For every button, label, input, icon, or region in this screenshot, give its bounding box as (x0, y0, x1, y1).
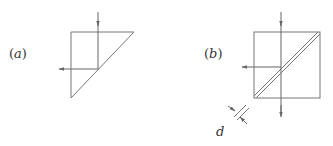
prism-triangle (71, 32, 134, 98)
diagonal-surface-2 (256, 34, 320, 98)
panel-b: (b) d (204, 12, 320, 139)
gap-marker (228, 105, 249, 124)
beam-splitter-cube (254, 32, 320, 98)
panel-a: (a) (9, 12, 134, 98)
diagonal-surface-1 (254, 32, 318, 96)
gap-arrow-in (228, 106, 235, 111)
gap-line-2 (237, 108, 249, 120)
gap-arrow-out (240, 117, 247, 124)
gap-label: d (216, 124, 224, 139)
panel-b-label: (b) (204, 46, 222, 61)
gap-line-1 (234, 105, 246, 117)
panel-a-label: (a) (9, 46, 27, 61)
optics-diagram: (a) (b) d (0, 0, 333, 146)
